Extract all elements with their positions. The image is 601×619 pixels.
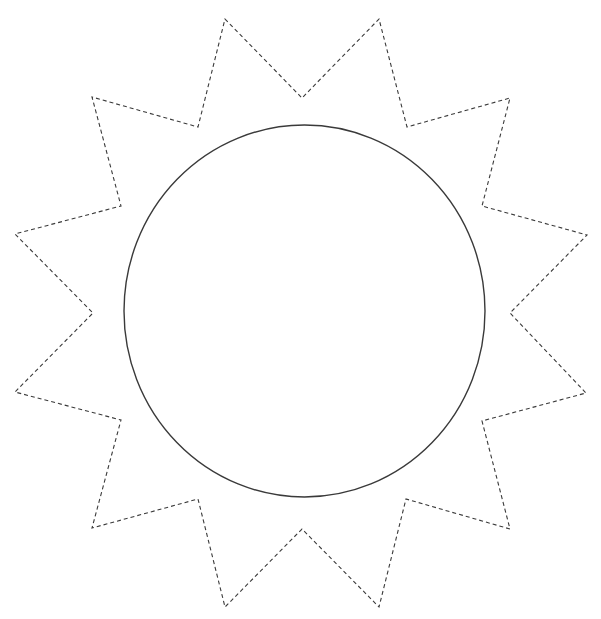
sun-disc-circle [124,125,485,497]
sun-rays-dashed-outline [15,19,587,607]
sun-diagram [0,0,601,619]
